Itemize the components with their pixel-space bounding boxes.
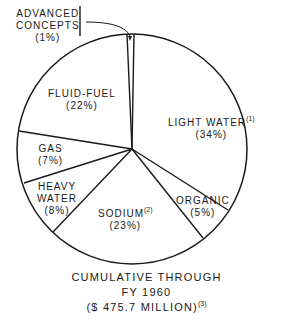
label-pct: (7%): [38, 155, 63, 167]
caption-line: FY 1960: [0, 285, 293, 300]
label-gas: GAS (7%): [38, 143, 63, 167]
label-pct: (1%): [16, 32, 80, 44]
label-text: ORGANIC: [176, 195, 230, 207]
footnote-ref: (3): [198, 300, 207, 307]
label-pct: (5%): [176, 207, 230, 219]
label-text: GAS: [38, 143, 63, 155]
label-light-water: LIGHT WATER(1) (34%): [168, 117, 255, 141]
label-text: ADVANCED: [16, 8, 80, 20]
label-text: SODIUM: [98, 208, 144, 219]
label-pct: (8%): [37, 205, 77, 217]
chart-caption: CUMULATIVE THROUGH FY 1960 ($ 475.7 MILL…: [0, 270, 293, 315]
label-organic: ORGANIC (5%): [176, 195, 230, 219]
caption-line: ($ 475.7 MILLION): [86, 301, 198, 313]
footnote-ref: (1): [246, 115, 255, 122]
label-text: WATER: [37, 193, 77, 205]
label-sodium: SODIUM(2) (23%): [98, 208, 153, 232]
label-text: LIGHT WATER: [168, 117, 246, 128]
label-fluid-fuel: FLUID-FUEL (22%): [48, 88, 116, 112]
label-pct: (22%): [48, 100, 116, 112]
label-advanced-concepts: ADVANCED CONCEPTS (1%): [16, 8, 80, 44]
footnote-ref: (2): [144, 206, 153, 213]
caption-line: CUMULATIVE THROUGH: [0, 270, 293, 285]
label-text: HEAVY: [37, 181, 77, 193]
label-pct: (23%): [98, 220, 153, 232]
label-pct: (34%): [168, 129, 255, 141]
label-text: CONCEPTS: [16, 20, 80, 32]
label-heavy-water: HEAVY WATER (8%): [37, 181, 77, 217]
label-text: FLUID-FUEL: [48, 88, 116, 100]
